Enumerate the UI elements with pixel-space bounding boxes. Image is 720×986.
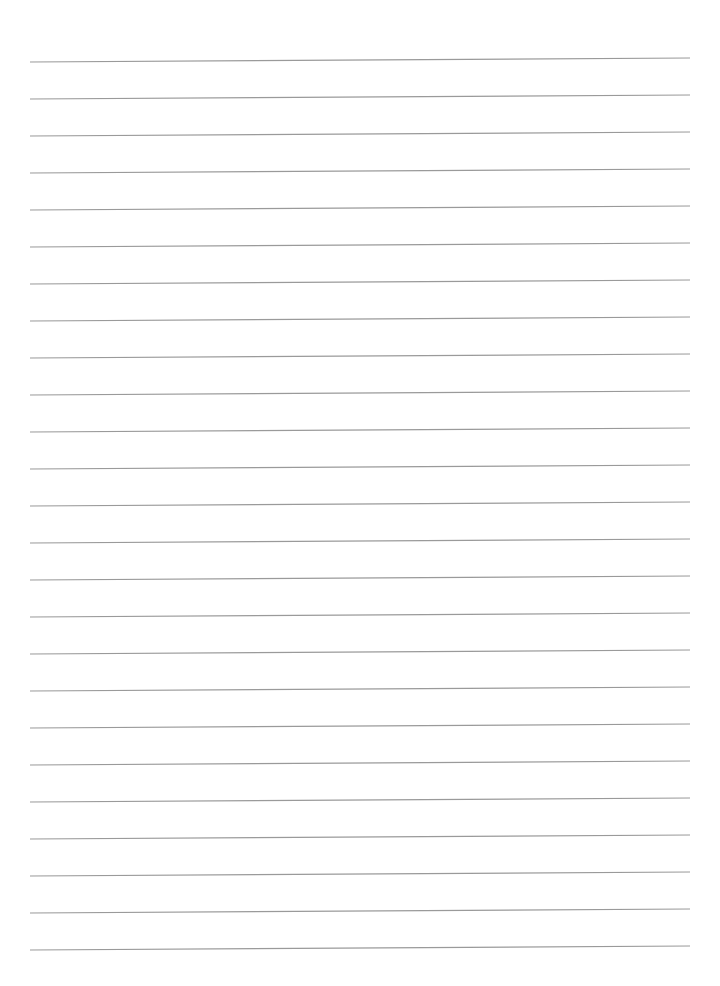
ruled-line (30, 798, 690, 802)
ruled-line (30, 613, 690, 617)
ruled-line (30, 724, 690, 728)
ruled-line (30, 835, 690, 839)
ruled-line (30, 576, 690, 580)
ruled-line (30, 58, 690, 62)
ruled-line (30, 502, 690, 506)
ruled-line (30, 872, 690, 876)
ruled-line (30, 132, 690, 136)
ruled-lines (0, 0, 720, 986)
ruled-line (30, 280, 690, 284)
ruled-line (30, 539, 690, 543)
ruled-line (30, 317, 690, 321)
ruled-line (30, 95, 690, 99)
ruled-line (30, 687, 690, 691)
ruled-line (30, 391, 690, 395)
ruled-line (30, 354, 690, 358)
ruled-line (30, 650, 690, 654)
ruled-line (30, 761, 690, 765)
ruled-line (30, 465, 690, 469)
ruled-line (30, 428, 690, 432)
ruled-paper-page (0, 0, 720, 986)
ruled-line (30, 946, 690, 950)
ruled-line (30, 909, 690, 913)
ruled-line (30, 243, 690, 247)
ruled-line (30, 206, 690, 210)
ruled-line (30, 169, 690, 173)
